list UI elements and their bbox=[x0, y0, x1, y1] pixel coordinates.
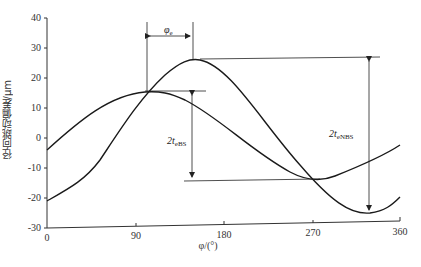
phi-e-label: φe bbox=[164, 24, 173, 37]
y-tick-label: 40 bbox=[31, 12, 41, 23]
y-tick-label: 30 bbox=[31, 42, 41, 53]
y-tick-label: -20 bbox=[28, 192, 41, 203]
t-enbs-label: 2teNBS bbox=[329, 128, 354, 141]
x-tick-label: 360 bbox=[393, 226, 408, 237]
y-tick-label: 0 bbox=[36, 132, 41, 143]
x-tick-label: 90 bbox=[131, 230, 141, 241]
x-tick-label: 180 bbox=[217, 229, 232, 240]
x-axis: 0 90 180 270 360 φ/(°) bbox=[45, 217, 408, 252]
y-tick-label: 10 bbox=[31, 102, 41, 113]
x-tick-label: 0 bbox=[45, 232, 50, 243]
y-tick-label: 20 bbox=[31, 72, 41, 83]
y-tick-label: -30 bbox=[28, 222, 41, 233]
t-ebs-label: 2teBS bbox=[167, 135, 187, 148]
x-axis-title: φ/(°) bbox=[198, 240, 217, 252]
x-tick-label: 270 bbox=[306, 227, 321, 238]
y-tick-label: -10 bbox=[28, 162, 41, 173]
t-ebs-dimension: 2teBS bbox=[145, 91, 320, 181]
phi-e-dimension: φe bbox=[147, 22, 193, 92]
y-axis: 40 30 20 10 0 -10 -20 -30 bbox=[28, 12, 47, 233]
t-enbs-dimension: 2teNBS bbox=[200, 57, 380, 210]
y-axis-title: 径向跳动偏差/μm bbox=[2, 80, 16, 159]
chart: 40 30 20 10 0 -10 -20 -30 0 90 180 270 3… bbox=[0, 0, 421, 267]
